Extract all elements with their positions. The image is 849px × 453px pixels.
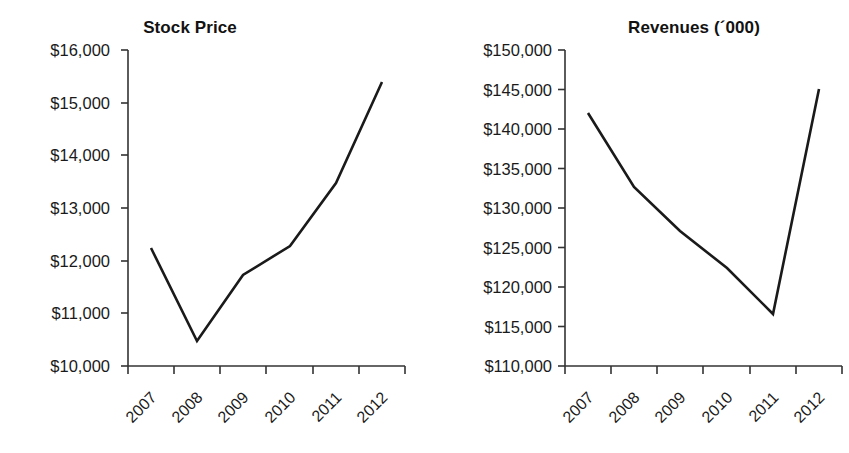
x-axis-ticks-revenues: [565, 366, 842, 374]
y-tick-label: $110,000: [424, 358, 552, 375]
y-tick-label: $145,000: [424, 81, 552, 98]
y-tick-label: $16,000: [0, 42, 110, 59]
y-tick-label: $150,000: [424, 42, 552, 59]
y-tick-label: $11,000: [0, 305, 110, 322]
chart-panel-revenues: Revenues (´000): [424, 0, 849, 453]
y-tick-label: $125,000: [424, 239, 552, 256]
y-tick-label: $10,000: [0, 358, 110, 375]
y-tick-label: $140,000: [424, 121, 552, 138]
data-line-revenues: [588, 89, 819, 314]
y-tick-label: $120,000: [424, 279, 552, 296]
plot-area-stock-price: [0, 0, 425, 453]
y-tick-label: $130,000: [424, 200, 552, 217]
y-tick-label: $13,000: [0, 200, 110, 217]
y-tick-label: $15,000: [0, 95, 110, 112]
data-line-stock-price: [151, 82, 382, 341]
y-axis-ticks-revenues: [558, 50, 565, 366]
plot-area-revenues: [424, 0, 849, 453]
y-tick-label: $12,000: [0, 253, 110, 270]
y-tick-label: $14,000: [0, 147, 110, 164]
figure-container: Stock Price: [0, 0, 849, 453]
x-axis-ticks-stock-price: [128, 366, 405, 374]
chart-panel-stock-price: Stock Price: [0, 0, 425, 453]
y-tick-label: $115,000: [424, 318, 552, 335]
y-axis-ticks-stock-price: [121, 50, 128, 366]
y-tick-label: $135,000: [424, 160, 552, 177]
